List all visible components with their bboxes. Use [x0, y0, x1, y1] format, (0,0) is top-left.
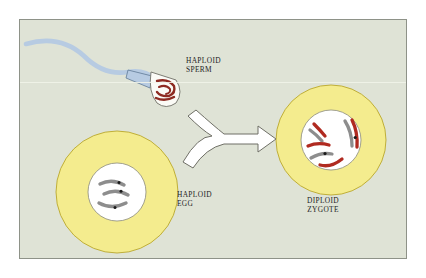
- egg-cell: [56, 131, 178, 253]
- fertilization-diagram: HAPLOID SPERM HAPLOID EGG DIPLOID ZYGOTE: [0, 0, 426, 278]
- fusion-arrow: [183, 110, 276, 168]
- diagram-artwork: [0, 0, 426, 278]
- label-haploid-egg: HAPLOID EGG: [177, 191, 212, 209]
- arrow-shape: [183, 110, 276, 168]
- centromere-dot: [118, 181, 121, 184]
- centromere-dot: [120, 190, 123, 193]
- sperm-head: [150, 72, 180, 107]
- sperm-cell: [26, 41, 180, 107]
- label-diploid-zygote: DIPLOID ZYGOTE: [307, 197, 339, 215]
- centromere-dot: [323, 152, 326, 155]
- centromere-dot: [354, 136, 357, 139]
- centromere-dot: [114, 206, 117, 209]
- zygote-cell: [276, 85, 386, 195]
- label-haploid-sperm: HAPLOID SPERM: [186, 57, 221, 75]
